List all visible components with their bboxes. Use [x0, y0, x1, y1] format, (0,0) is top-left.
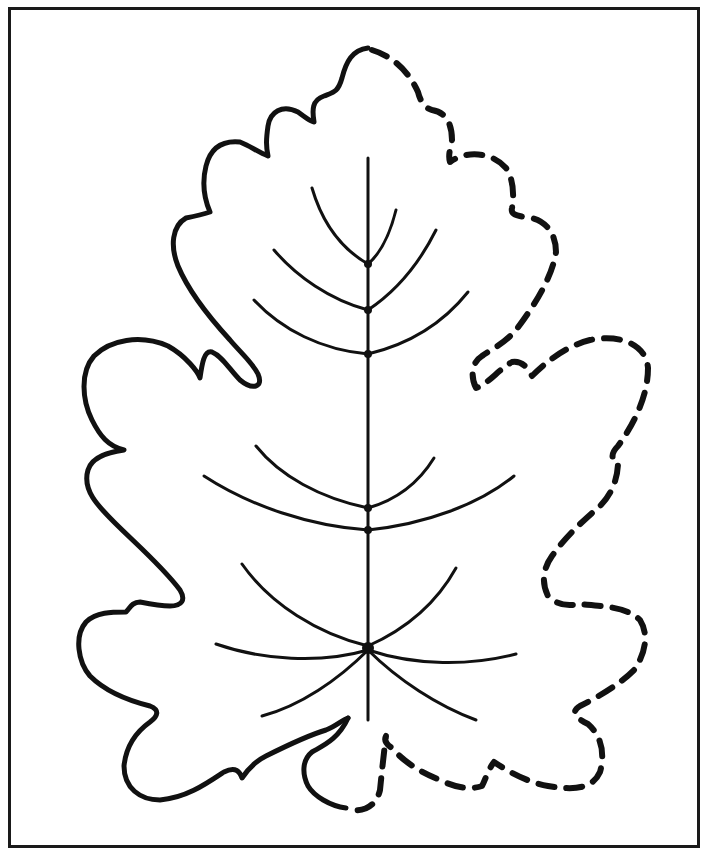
leaf-veins — [204, 188, 516, 720]
leaf-worksheet — [0, 0, 714, 858]
leaf-drawing — [0, 0, 714, 858]
leaf-outline-dashed — [346, 50, 648, 810]
